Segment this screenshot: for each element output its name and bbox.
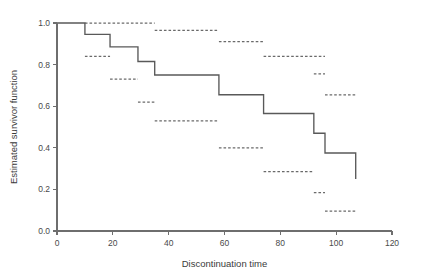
y-tick-label: 0.2 bbox=[38, 184, 50, 194]
x-tick-label: 40 bbox=[164, 238, 174, 248]
x-tick-label: 120 bbox=[385, 238, 399, 248]
y-axis-title: Estimated survivor function bbox=[8, 70, 19, 184]
y-tick-label: 1.0 bbox=[38, 18, 50, 28]
survival-chart: 020406080100120 0.00.20.40.60.81.0 Disco… bbox=[0, 0, 423, 278]
x-axis-title: Discontinuation time bbox=[182, 258, 268, 269]
y-tick-label: 0.6 bbox=[38, 101, 50, 111]
x-tick-label: 60 bbox=[220, 238, 230, 248]
x-tick-label: 20 bbox=[108, 238, 118, 248]
x-tick-label: 80 bbox=[276, 238, 286, 248]
chart-canvas: 020406080100120 0.00.20.40.60.81.0 Disco… bbox=[0, 0, 423, 278]
y-tick-label: 0.8 bbox=[38, 60, 50, 70]
x-tick-label: 0 bbox=[55, 238, 60, 248]
x-tick-label: 100 bbox=[329, 238, 343, 248]
y-tick-label: 0.4 bbox=[38, 143, 50, 153]
y-tick-label: 0.0 bbox=[38, 226, 50, 236]
chart-background bbox=[0, 0, 423, 278]
